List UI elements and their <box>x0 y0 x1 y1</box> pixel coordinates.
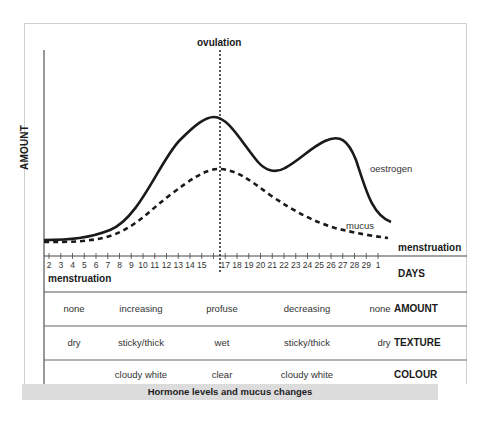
x-tick-label: 7 <box>105 260 110 270</box>
row-header-colour: COLOUR <box>394 360 437 386</box>
x-tick-label: 20 <box>256 260 265 270</box>
x-tick-label: 19 <box>244 260 253 270</box>
x-tick-label: 12 <box>162 260 171 270</box>
x-tick-label: 18 <box>232 260 241 270</box>
y-axis-label: AMOUNT <box>19 125 30 170</box>
x-tick-label: 1 <box>376 260 381 270</box>
x-tick-label: 11 <box>150 260 159 270</box>
x-tick-label: 14 <box>185 260 194 270</box>
x-tick-label: 29 <box>362 260 371 270</box>
x-tick-label: 23 <box>291 260 300 270</box>
table-cell: sticky/thick <box>284 326 330 360</box>
table-cell: wet <box>215 326 230 360</box>
table-cell: increasing <box>119 292 162 326</box>
x-tick-label: 22 <box>279 260 288 270</box>
figure-caption: Hormone levels and mucus changes <box>22 384 438 400</box>
table-row-texture: dry sticky/thick wet sticky/thick dry TE… <box>44 326 467 360</box>
x-tick-label: 8 <box>117 260 122 270</box>
mucus-line <box>44 169 388 242</box>
days-axis-label: DAYS <box>398 268 425 279</box>
x-tick-label: 4 <box>70 260 75 270</box>
x-tick-label: 13 <box>174 260 183 270</box>
x-tick-label: 21 <box>268 260 277 270</box>
ovulation-label: ovulation <box>197 37 241 48</box>
oestrogen-label: oestrogen <box>370 163 412 174</box>
table-cell: dry <box>377 326 390 360</box>
row-header-amount: AMOUNT <box>394 292 438 326</box>
menstruation-label-right: menstruation <box>398 242 461 253</box>
x-tick-label: 9 <box>129 260 134 270</box>
table-cell: sticky/thick <box>118 326 164 360</box>
menstruation-label-left: menstruation <box>48 273 111 284</box>
table-cell: cloudy white <box>281 360 333 386</box>
table-row-amount: none increasing profuse decreasing none … <box>44 292 467 326</box>
x-tick-label: 26 <box>326 260 335 270</box>
oestrogen-line <box>44 117 391 240</box>
x-tick-label: 6 <box>94 260 99 270</box>
row-header-texture: TEXTURE <box>394 326 441 360</box>
x-tick-label: 5 <box>82 260 87 270</box>
table-cell: dry <box>67 326 80 360</box>
x-tick-label: 27 <box>338 260 347 270</box>
x-tick-label: 10 <box>138 260 147 270</box>
table-cell: profuse <box>206 292 238 326</box>
x-tick-label: 25 <box>315 260 324 270</box>
x-tick-label: 17 <box>221 260 230 270</box>
table-cell: decreasing <box>284 292 330 326</box>
table-cell: none <box>63 292 84 326</box>
table-cell: cloudy white <box>115 360 167 386</box>
x-tick-label: 3 <box>58 260 63 270</box>
table-row-colour: cloudy white clear cloudy white COLOUR <box>44 360 467 386</box>
x-tick-label: 28 <box>350 260 359 270</box>
table-cell: none <box>369 292 390 326</box>
x-tick-label: 24 <box>303 260 312 270</box>
x-tick-label: 15 <box>197 260 206 270</box>
table-cell: clear <box>212 360 233 386</box>
mucus-label: mucus <box>346 220 374 231</box>
x-tick-label: 2 <box>47 260 52 270</box>
